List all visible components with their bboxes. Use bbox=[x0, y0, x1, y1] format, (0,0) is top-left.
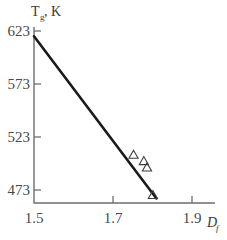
y-axis-title-unit: , K bbox=[44, 4, 61, 19]
y-tick-label-473: 473 bbox=[8, 182, 31, 198]
y-tick-label-573: 573 bbox=[8, 76, 31, 92]
x-tick-label-1-5: 1.5 bbox=[25, 210, 44, 226]
y-tick-label-623: 623 bbox=[8, 23, 31, 39]
y-axis-title-main: T bbox=[31, 4, 40, 19]
y-tick-label-523: 523 bbox=[8, 129, 31, 145]
x-tick-label-1-9: 1.9 bbox=[183, 210, 202, 226]
chart-figure: T g , K 623 573 523 473 1.5 1.7 1.9 D f bbox=[0, 0, 227, 240]
x-tick-label-1-7: 1.7 bbox=[104, 210, 123, 226]
